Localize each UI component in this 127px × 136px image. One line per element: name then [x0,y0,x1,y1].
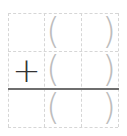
open-paren: ( [46,13,60,49]
close-paren: ) [102,51,116,87]
close-paren: ) [102,89,116,125]
operator-cell-row-2: + [8,51,45,89]
answer-blank-row-1[interactable]: ( ) [44,13,118,51]
answer-blank-row-3[interactable]: ( ) [44,89,118,127]
close-paren: ) [102,13,116,49]
grid-line [8,127,118,128]
operator-cell-row-3 [8,89,45,127]
answer-grid: ( ) + ( ) ( ) [8,13,118,127]
open-paren: ( [46,89,60,125]
operator-cell-row-1 [8,13,45,51]
open-paren: ( [46,51,60,87]
answer-blank-row-2[interactable]: ( ) [44,51,118,89]
plus-operator: + [12,53,41,87]
grid-line [118,13,119,127]
